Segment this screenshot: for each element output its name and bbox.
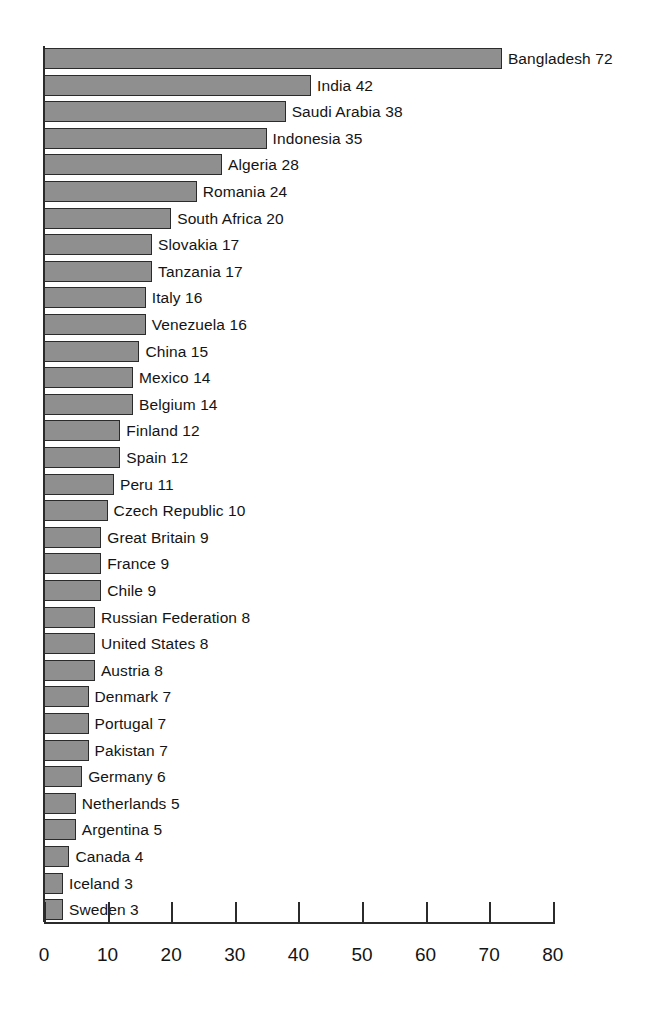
- bar-row: Italy 16: [44, 287, 203, 308]
- bar-row: France 9: [44, 553, 169, 574]
- bar-row: Venezuela 16: [44, 314, 247, 335]
- bar-rect: [44, 261, 152, 282]
- bar-rect: [44, 686, 89, 707]
- bar-label: Spain 12: [126, 447, 188, 468]
- bar-row: Finland 12: [44, 420, 200, 441]
- bar-label: Iceland 3: [69, 873, 133, 894]
- bar-rect: [44, 899, 63, 920]
- x-axis-tick-label: 40: [288, 944, 309, 966]
- bar-row: Chile 9: [44, 580, 156, 601]
- bar-row: Indonesia 35: [44, 128, 363, 149]
- bar-row: Pakistan 7: [44, 740, 168, 761]
- bar-rect: [44, 234, 152, 255]
- bar-label: Argentina 5: [82, 819, 162, 840]
- bar-label: Romania 24: [203, 181, 288, 202]
- x-axis-tick-label: 60: [415, 944, 436, 966]
- bar-label: Italy 16: [152, 287, 203, 308]
- bar-label: Canada 4: [75, 846, 143, 867]
- x-axis-tick: [235, 902, 237, 924]
- x-axis-tick-label: 80: [542, 944, 563, 966]
- x-axis-tick: [553, 902, 555, 924]
- x-axis-tick: [426, 902, 428, 924]
- x-axis-tick-label: 10: [97, 944, 118, 966]
- bar-rect: [44, 819, 76, 840]
- bar-rect: [44, 447, 120, 468]
- bar-row: India 42: [44, 75, 373, 96]
- bar-row: Denmark 7: [44, 686, 171, 707]
- x-axis-tick: [44, 902, 46, 924]
- bar-label: Netherlands 5: [82, 793, 180, 814]
- bar-row: Tanzania 17: [44, 261, 243, 282]
- x-axis-tick: [489, 902, 491, 924]
- x-axis-tick: [298, 902, 300, 924]
- bar-row: Russian Federation 8: [44, 607, 250, 628]
- bar-rect: [44, 500, 108, 521]
- bar-rect: [44, 287, 146, 308]
- bar-row: Great Britain 9: [44, 527, 209, 548]
- x-axis-tick: [171, 902, 173, 924]
- plot-area: Bangladesh 72India 42Saudi Arabia 38Indo…: [0, 0, 667, 1012]
- bar-row: Bangladesh 72: [44, 48, 613, 69]
- bar-label: Peru 11: [120, 474, 174, 495]
- bar-label: United States 8: [101, 633, 208, 654]
- bar-label: Chile 9: [107, 580, 156, 601]
- x-axis-tick: [362, 902, 364, 924]
- bar-label: Austria 8: [101, 660, 163, 681]
- bar-rect: [44, 660, 95, 681]
- bar-label: China 15: [145, 341, 208, 362]
- bar-rect: [44, 341, 139, 362]
- bar-label: Venezuela 16: [152, 314, 247, 335]
- bar-rect: [44, 633, 95, 654]
- bar-rect: [44, 846, 69, 867]
- bar-row: Algeria 28: [44, 154, 299, 175]
- bar-label: Russian Federation 8: [101, 607, 250, 628]
- bar-rect: [44, 607, 95, 628]
- bar-label: Bangladesh 72: [508, 48, 613, 69]
- horizontal-bar-chart: Bangladesh 72India 42Saudi Arabia 38Indo…: [0, 0, 667, 1012]
- x-axis-tick-label: 50: [351, 944, 372, 966]
- bar-row: Peru 11: [44, 474, 174, 495]
- bar-label: France 9: [107, 553, 169, 574]
- bar-rect: [44, 367, 133, 388]
- bar-rect: [44, 873, 63, 894]
- bar-label: Tanzania 17: [158, 261, 243, 282]
- bar-label: Finland 12: [126, 420, 199, 441]
- bar-rect: [44, 420, 120, 441]
- bar-row: United States 8: [44, 633, 208, 654]
- bar-rect: [44, 527, 101, 548]
- bar-rect: [44, 75, 311, 96]
- bar-rect: [44, 580, 101, 601]
- bar-row: Czech Republic 10: [44, 500, 245, 521]
- bar-rect: [44, 474, 114, 495]
- bar-label: India 42: [317, 75, 373, 96]
- bar-label: Belgium 14: [139, 394, 218, 415]
- bar-rect: [44, 766, 82, 787]
- bar-row: Spain 12: [44, 447, 188, 468]
- x-axis-tick-label: 0: [39, 944, 50, 966]
- bar-rect: [44, 128, 267, 149]
- bar-row: China 15: [44, 341, 208, 362]
- bar-label: Portugal 7: [95, 713, 167, 734]
- bar-row: Portugal 7: [44, 713, 166, 734]
- x-axis-tick-label: 70: [479, 944, 500, 966]
- bar-label: Saudi Arabia 38: [292, 101, 403, 122]
- x-axis-tick-label: 30: [224, 944, 245, 966]
- bar-row: Argentina 5: [44, 819, 162, 840]
- bar-row: Mexico 14: [44, 367, 211, 388]
- bar-row: Belgium 14: [44, 394, 218, 415]
- bar-rect: [44, 154, 222, 175]
- bar-row: Canada 4: [44, 846, 143, 867]
- bar-row: Slovakia 17: [44, 234, 239, 255]
- bar-rect: [44, 208, 171, 229]
- bar-label: South Africa 20: [177, 208, 284, 229]
- bar-rect: [44, 553, 101, 574]
- bar-rect: [44, 101, 286, 122]
- bar-label: Mexico 14: [139, 367, 211, 388]
- bar-label: Indonesia 35: [273, 128, 363, 149]
- bar-row: Austria 8: [44, 660, 163, 681]
- bar-label: Slovakia 17: [158, 234, 239, 255]
- bar-row: Netherlands 5: [44, 793, 180, 814]
- bar-rect: [44, 394, 133, 415]
- bar-label: Sweden 3: [69, 899, 139, 920]
- bar-row: Sweden 3: [44, 899, 139, 920]
